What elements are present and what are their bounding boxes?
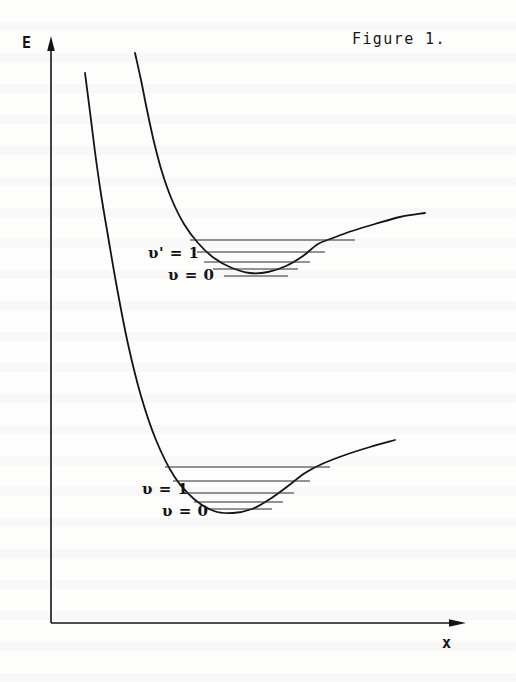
figure-caption: Figure 1. bbox=[352, 30, 446, 48]
ground-state-v1-label: υ = 1 bbox=[142, 480, 188, 498]
excited-state-v1-label: υ' = 1 bbox=[148, 244, 199, 262]
figure-page: Figure 1. E x υ' = 1 υ = 0 υ = 1 υ = 0 bbox=[0, 0, 516, 682]
ground-state-potential-curve bbox=[85, 73, 395, 513]
y-axis-arrowhead bbox=[47, 36, 55, 51]
y-axis-label: E bbox=[22, 34, 31, 52]
excited-state-v0-label: υ = 0 bbox=[168, 266, 214, 284]
x-axis-arrowhead bbox=[449, 619, 466, 627]
ground-state-v0-label: υ = 0 bbox=[162, 502, 208, 520]
x-axis-label: x bbox=[442, 634, 451, 652]
potential-energy-diagram bbox=[0, 0, 516, 682]
